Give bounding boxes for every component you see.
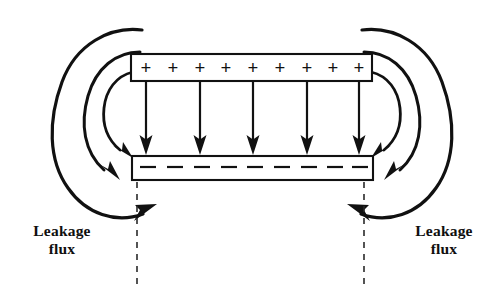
plate-sign: + — [354, 57, 365, 78]
plate-sign: + — [328, 57, 339, 78]
negative-plate — [132, 156, 373, 180]
plate-sign: + — [168, 57, 179, 78]
right-leakage-arc-middle-arrowhead — [384, 161, 405, 180]
diagram-canvas: + + + + + + + + + — [0, 0, 496, 303]
right-label-line2: flux — [431, 240, 458, 257]
plate-sign: + — [141, 57, 152, 78]
right-leakage-arc-outer — [361, 29, 452, 217]
positive-plate: + + + + + + + + + — [131, 54, 372, 81]
positive-charge-signs: + + + + + + + + + — [141, 57, 365, 78]
right-leakage-arc-inner — [371, 72, 400, 150]
left-leakage-arc-middle-arrowhead — [99, 161, 120, 180]
plate-sign: + — [221, 57, 232, 78]
left-label-line1: Leakage — [33, 222, 90, 239]
left-leakage-flux-label: Leakage flux — [33, 222, 90, 257]
field-arrow — [301, 82, 314, 155]
plate-sign: + — [195, 57, 206, 78]
field-arrow — [140, 82, 153, 155]
leakage-flux-diagram: + + + + + + + + + — [0, 0, 496, 303]
plate-sign: + — [275, 57, 286, 78]
plate-edge-guides — [137, 182, 364, 288]
plate-sign: + — [248, 57, 259, 78]
left-label-line2: flux — [49, 240, 76, 257]
right-leakage-flux-label: Leakage flux — [415, 222, 472, 257]
plate-sign: + — [302, 57, 313, 78]
right-label-line1: Leakage — [415, 222, 472, 239]
uniform-field-arrows — [140, 82, 366, 155]
left-leakage-arc-outer — [52, 29, 143, 217]
right-leakage-arc-outer-arrowhead — [347, 204, 370, 221]
field-arrow — [353, 82, 366, 155]
field-arrow — [194, 82, 207, 155]
field-arrow — [247, 82, 260, 155]
left-leakage-arc-inner — [104, 72, 133, 150]
